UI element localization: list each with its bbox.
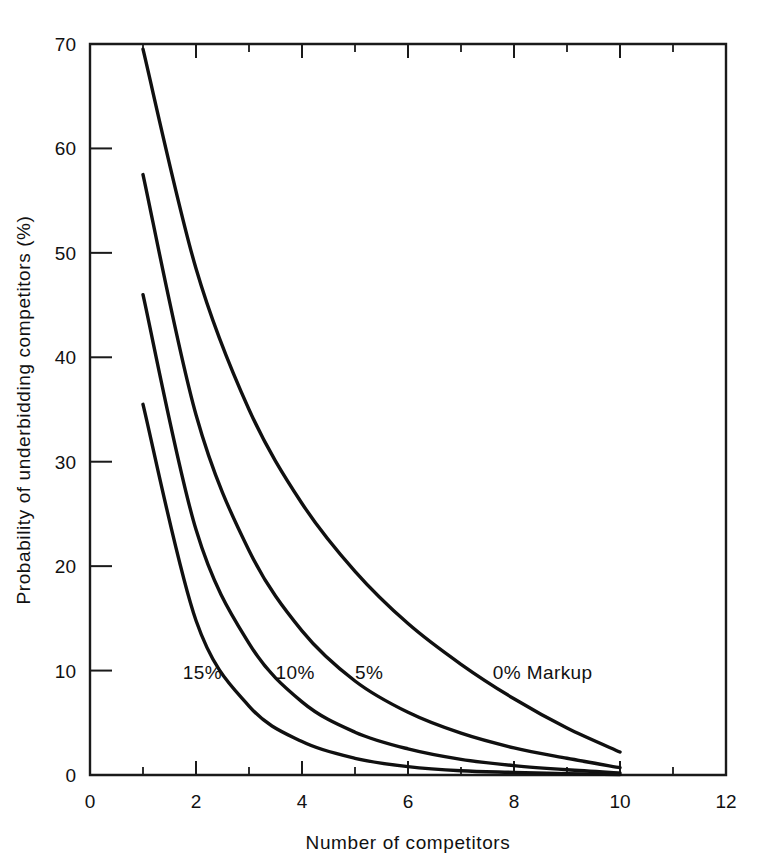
x-tick-label: 0 [85,791,96,812]
y-tick-label: 0 [65,765,76,786]
x-tick-label: 6 [403,791,414,812]
series-label-0-markup: 0% Markup [493,662,593,683]
series-label-15: 15% [183,662,222,683]
y-tick-label: 60 [55,138,76,159]
y-tick-label: 50 [55,243,76,264]
y-tick-label: 30 [55,452,76,473]
x-tick-label: 12 [715,791,736,812]
series-label-5: 5% [355,662,383,683]
chart-figure: 024681012 010203040506070 0% Markup5%10%… [0,0,758,861]
line-chart-svg: 024681012 010203040506070 0% Markup5%10%… [0,0,758,861]
y-axis-title: Probability of underbidding competitors … [13,215,34,604]
y-tick-label: 10 [55,661,76,682]
x-tick-label: 4 [297,791,308,812]
x-tick-label: 8 [509,791,520,812]
x-tick-label: 10 [609,791,630,812]
y-tick-label: 20 [55,556,76,577]
y-tick-label: 70 [55,34,76,55]
x-tick-label: 2 [191,791,202,812]
x-axis-title: Number of competitors [306,832,511,853]
y-tick-label: 40 [55,347,76,368]
chart-background [0,0,758,861]
series-label-10: 10% [276,662,315,683]
